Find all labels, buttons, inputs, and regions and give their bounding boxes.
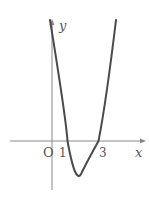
x-tick-1-label: 1 (59, 146, 67, 160)
x-axis-label: x (135, 145, 143, 160)
x-tick-3-label: 3 (99, 146, 107, 160)
x-axis-arrow-icon (140, 139, 146, 144)
origin-label: O (43, 145, 54, 160)
parabola-graph: O 1 3 x y (0, 0, 149, 200)
y-axis-label: y (58, 18, 67, 33)
